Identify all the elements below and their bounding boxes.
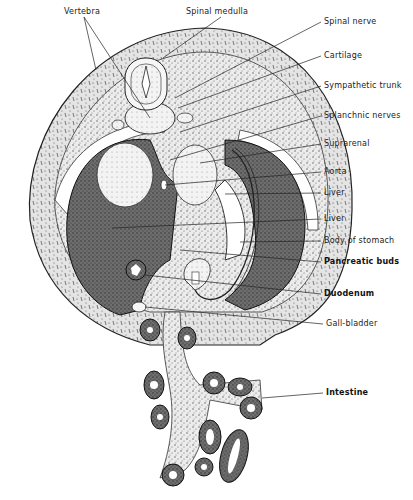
label-intestine: Intestine — [326, 388, 368, 397]
label-sympathetic-trunk: Sympathetic trunk — [324, 81, 402, 90]
label-aorta: Aorta — [324, 167, 347, 176]
duodenum — [126, 260, 146, 280]
label-spinal-medulla: Spinal medulla — [186, 7, 248, 16]
label-cartilage: Cartilage — [324, 51, 362, 60]
label-splanchnic-nerves: Splanchnic nerves — [324, 111, 401, 120]
label-pancreatic-buds: Pancreatic buds — [324, 257, 399, 266]
label-spinal-nerve: Spinal nerve — [324, 17, 376, 26]
anatomical-figure — [0, 0, 413, 500]
leader-vertebra — [84, 17, 96, 70]
label-body-of-stomach: Body of stomach — [324, 236, 394, 245]
label-gall-bladder: Gall-bladder — [326, 319, 377, 328]
label-suprarenal: Suprarenal — [324, 139, 370, 148]
spinal-medulla — [125, 58, 167, 110]
leader-intestine — [262, 393, 323, 398]
label-liver-1: Liver — [324, 188, 345, 197]
label-liver-2: Liver — [324, 214, 345, 223]
left-mesonephros — [97, 143, 153, 207]
label-duodenum: Duodenum — [324, 289, 374, 298]
label-vertebra: Vertebra — [64, 7, 100, 16]
suprarenal — [173, 145, 217, 205]
gall-bladder — [132, 302, 146, 312]
